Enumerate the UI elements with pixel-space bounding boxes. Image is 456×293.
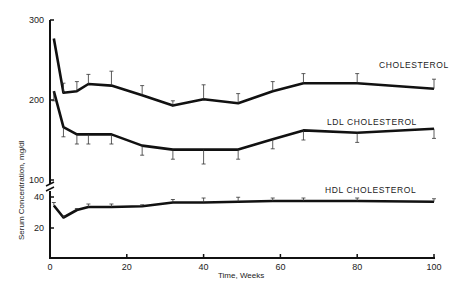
x-tick-label: 20 <box>122 262 132 272</box>
x-tick-label: 40 <box>199 262 209 272</box>
label-cholesterol: CHOLESTEROL <box>379 60 449 70</box>
y-tick-label: 300 <box>29 15 44 25</box>
label-ldl-cholesterol: LDL CHOLESTEROL <box>327 117 417 127</box>
label-hdl-cholesterol: HDL CHOLESTEROL <box>325 185 416 195</box>
series-line-hdl-cholesterol <box>54 201 434 218</box>
series-line-cholesterol <box>54 38 434 105</box>
y-axis-label: Serum Concentration, mg/dl <box>17 140 26 240</box>
x-tick-label: 60 <box>275 262 285 272</box>
x-tick-label: 0 <box>47 262 52 272</box>
axis-break-mark <box>46 187 54 191</box>
x-ticks: 020406080100 <box>47 254 441 272</box>
y-tick-label: 40 <box>34 192 44 202</box>
y-tick-label: 200 <box>29 95 44 105</box>
y-tick-label: 20 <box>34 223 44 233</box>
cholesterol-chart: 3002001004020 020406080100 CHOLESTEROL L… <box>0 0 456 293</box>
x-tick-label: 80 <box>352 262 362 272</box>
y-tick-label: 100 <box>29 175 44 185</box>
x-axis-label: Time, Weeks <box>218 271 264 280</box>
axes <box>46 20 435 259</box>
x-tick-label: 100 <box>426 262 441 272</box>
